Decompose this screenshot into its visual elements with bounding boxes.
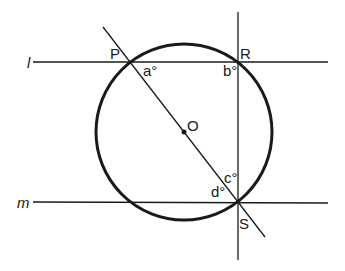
label-line-l: l	[27, 54, 31, 71]
center-point-o	[182, 130, 187, 135]
label-point-r: R	[240, 45, 251, 62]
label-angle-c: c°	[224, 169, 238, 186]
label-point-s: S	[239, 215, 249, 232]
label-line-m: m	[17, 194, 30, 211]
label-point-p: P	[110, 45, 120, 62]
label-angle-a: a°	[143, 62, 157, 79]
label-angle-b: b°	[223, 62, 237, 79]
label-angle-d: d°	[211, 183, 225, 200]
label-point-o: O	[187, 117, 199, 134]
geometry-diagram: l m P R S O a° b° c° d°	[0, 0, 345, 271]
line-m	[33, 202, 328, 203]
